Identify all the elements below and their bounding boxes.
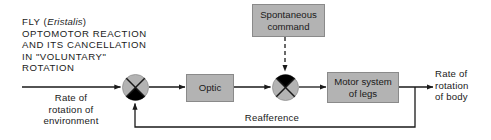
block-motor-system-label: Motor system of legs [334,76,392,99]
input-signal-label: Rate of rotation of environment [25,92,117,127]
block-motor-system: Motor system of legs [327,72,399,103]
title-line-1-prefix: FLY ( [22,16,47,27]
block-optic: Optic [186,74,234,102]
title-line-2: OPTOMOTOR REACTION [22,28,147,40]
spontaneous-line-2: command [267,21,309,32]
motor-line-1: Motor system [334,76,392,87]
input-label-line-3: environment [44,115,99,126]
comparator-1-junction [122,74,149,101]
spontaneous-line-1: Spontaneous [260,9,317,20]
diagram-title: FLY (Eristalis) OPTOMOTOR REACTION AND I… [22,16,147,74]
reafference-label: Reafference [222,112,322,124]
title-line-5: ROTATION [22,62,147,74]
title-line-1: FLY (Eristalis) [22,16,147,28]
motor-line-2: of legs [349,88,377,99]
block-optic-label: Optic [199,82,221,94]
species-name: Eristalis [47,16,82,27]
block-diagram: FLY (Eristalis) OPTOMOTOR REACTION AND I… [0,0,491,140]
output-signal-label: Rate of rotation of body [435,68,491,103]
output-label-line-3: of body [435,91,468,102]
title-line-1-suffix: ) [83,16,87,27]
title-line-4: IN "VOLUNTARY" [22,51,147,63]
output-label-line-1: Rate of [435,68,467,79]
block-spontaneous-command: Spontaneous command [252,4,325,37]
input-label-line-2: rotation of [49,104,94,115]
comparator-2-junction [272,74,299,101]
input-label-line-1: Rate of [55,92,87,103]
output-label-line-2: rotation [435,80,469,91]
block-spontaneous-command-label: Spontaneous command [260,9,317,32]
title-line-3: AND ITS CANCELLATION [22,39,147,51]
